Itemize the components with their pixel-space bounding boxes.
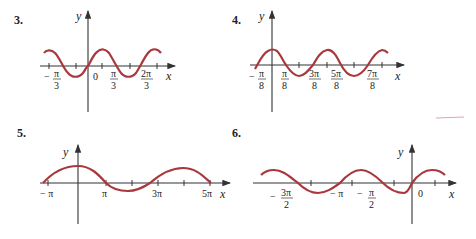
graph-3: 3. y x − π 3 0 π 3 2π 3	[14, 9, 175, 112]
svg-text:π: π	[259, 68, 264, 79]
y-axis-label: y	[397, 145, 404, 159]
svg-text:−: −	[249, 71, 255, 82]
problem-number: 3.	[14, 13, 23, 27]
svg-text:0: 0	[418, 188, 423, 199]
svg-text:2: 2	[369, 199, 374, 210]
svg-text:8: 8	[259, 80, 264, 91]
graph-6: 6. y x − 3π 2 − π − π 2 0	[232, 126, 456, 224]
graph-5: 5. y x − π π 3π 5π	[17, 126, 230, 224]
svg-text:3π: 3π	[152, 188, 162, 199]
svg-text:8: 8	[370, 80, 375, 91]
svg-text:8: 8	[312, 80, 317, 91]
svg-text:3π: 3π	[281, 187, 291, 198]
problem-number: 6.	[232, 126, 241, 140]
graph-4: 4. y x − π 8 π 8 3π 8 5π 8 7π 8	[232, 9, 404, 112]
x-axis-label: x	[394, 69, 401, 83]
tick-label-den: 3	[54, 80, 59, 91]
cosine-curve	[43, 166, 211, 191]
tick-label-zero: 0	[93, 71, 98, 82]
svg-text:π: π	[102, 188, 107, 199]
svg-text:−: −	[357, 188, 363, 199]
problem-number: 4.	[232, 13, 241, 27]
tick-label-minus: −	[44, 71, 50, 82]
exercise-figure: 3. y x − π 3 0 π 3 2π 3 4. y x	[0, 0, 476, 239]
y-axis-label: y	[62, 145, 69, 159]
svg-text:5π: 5π	[202, 188, 212, 199]
problem-number: 5.	[17, 126, 26, 140]
svg-text:2: 2	[284, 199, 289, 210]
x-axis-label: x	[448, 187, 455, 201]
svg-text:2π: 2π	[141, 68, 151, 79]
svg-text:π: π	[111, 68, 116, 79]
svg-text:8: 8	[282, 80, 287, 91]
y-axis-label: y	[75, 9, 82, 23]
svg-text:− π: − π	[330, 188, 343, 199]
svg-text:π: π	[282, 68, 287, 79]
tick-label-num: π	[54, 68, 59, 79]
svg-text:7π: 7π	[367, 68, 377, 79]
svg-text:3: 3	[111, 80, 116, 91]
svg-text:8: 8	[334, 80, 339, 91]
x-axis-label: x	[165, 69, 172, 83]
svg-text:5π: 5π	[331, 68, 341, 79]
svg-text:3: 3	[144, 80, 149, 91]
svg-text:−: −	[270, 191, 276, 202]
y-axis-label: y	[258, 9, 265, 23]
x-axis-label: x	[219, 187, 226, 201]
svg-text:− π: − π	[40, 188, 53, 199]
stray-mark	[436, 117, 464, 118]
svg-text:π: π	[369, 187, 374, 198]
svg-text:3π: 3π	[309, 68, 319, 79]
